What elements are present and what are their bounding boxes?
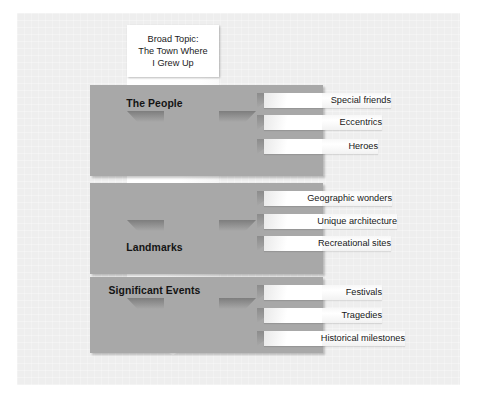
subtopic-row[interactable]: Geographic wonders [264,191,392,206]
branch-heading-significant-events: Significant Events [90,285,219,296]
subtopic-row[interactable]: Unique architecture [264,214,397,229]
subtopic-label: Special friends [264,93,391,108]
subtopic-label: Heroes [264,139,378,154]
subtopic-row[interactable]: Eccentrics [264,115,382,130]
subtopic-row[interactable]: Historical milestones [264,331,405,346]
subtopic-row[interactable]: Festivals [264,285,382,300]
subtopic-label: Festivals [264,285,382,300]
subtopic-label: Tragedies [264,308,382,323]
broad-topic-box: Broad Topic: The Town Where I Grew Up [127,25,219,77]
subtopic-label: Historical milestones [264,331,405,346]
subtopic-label: Eccentrics [264,115,382,130]
subtopic-row[interactable]: Tragedies [264,308,382,323]
subtopic-label: Recreational sites [264,236,391,251]
broad-topic-label: Broad Topic: The Town Where I Grew Up [138,33,207,69]
subtopic-label: Unique architecture [264,214,397,229]
branch-heading-the-people: The People [90,98,219,109]
subtopic-label: Geographic wonders [264,191,392,206]
subtopic-row[interactable]: Special friends [264,93,391,108]
branch-heading-landmarks: Landmarks [90,242,219,253]
diagram-stage: Broad Topic: The Town Where I Grew Up Th… [0,0,477,397]
subtopic-row[interactable]: Recreational sites [264,236,391,251]
subtopic-row[interactable]: Heroes [264,139,378,154]
